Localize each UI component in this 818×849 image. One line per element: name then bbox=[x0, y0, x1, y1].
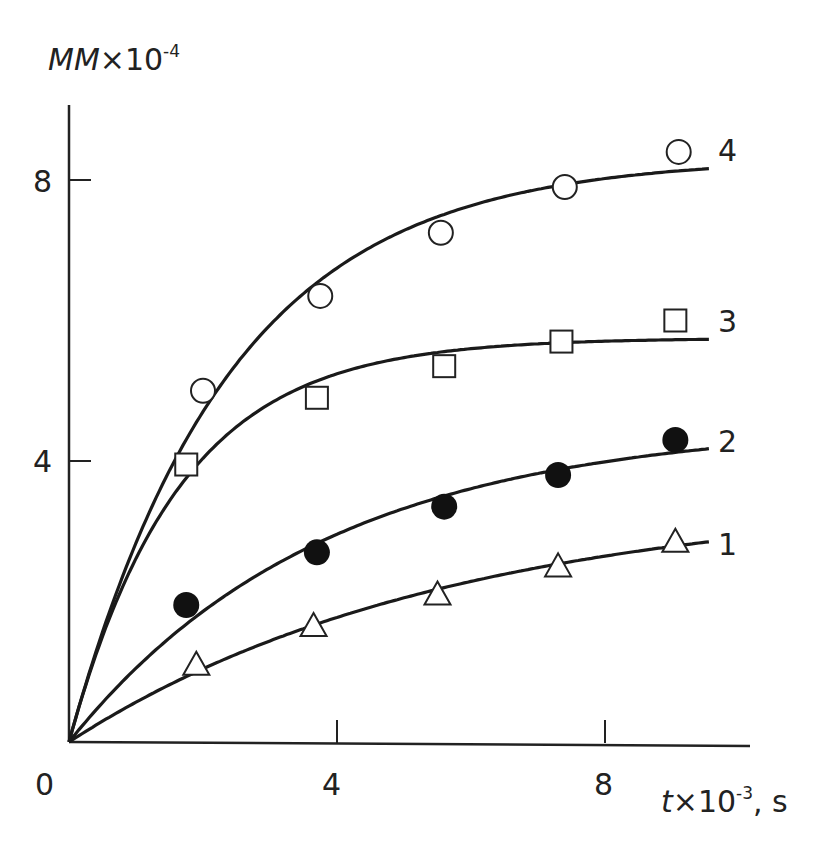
x-axis-title-exp: -3 bbox=[736, 783, 753, 803]
x-tick-label-4: 4 bbox=[322, 767, 341, 802]
fit-curve-3 bbox=[69, 339, 709, 742]
marker-series-2 bbox=[545, 462, 571, 488]
marker-series-3 bbox=[550, 331, 572, 353]
x-axis-title-mult: ×10 bbox=[673, 784, 736, 819]
y-axis-title-var: MM bbox=[48, 42, 100, 77]
marker-series-1 bbox=[301, 613, 327, 636]
y-axis-title-mult: ×10 bbox=[100, 42, 163, 77]
origin-label: 0 bbox=[35, 767, 54, 802]
marker-series-3 bbox=[433, 355, 455, 377]
marker-series-2 bbox=[173, 592, 199, 618]
marker-series-3 bbox=[306, 387, 328, 409]
marker-series-2 bbox=[662, 427, 688, 453]
y-axis-title: MM×10-4 bbox=[48, 41, 180, 77]
chart-figure: 0 4 8 4 8 MM×10-4 t×10-3, s 1 2 3 4 bbox=[0, 0, 818, 849]
curve-label-4: 4 bbox=[718, 133, 737, 168]
marker-series-4 bbox=[667, 140, 691, 164]
marker-series-3 bbox=[664, 310, 686, 332]
marker-series-1 bbox=[183, 652, 209, 675]
x-tick-label-8: 8 bbox=[594, 767, 613, 802]
marker-series-4 bbox=[553, 175, 577, 199]
fit-curve-4 bbox=[69, 169, 709, 742]
x-axis-title-unit: , s bbox=[753, 784, 788, 819]
x-axis-title: t×10-3, s bbox=[661, 783, 788, 819]
fit-curve-2 bbox=[69, 449, 709, 742]
marker-series-3 bbox=[175, 454, 197, 476]
marker-series-2 bbox=[431, 494, 457, 520]
marker-series-2 bbox=[304, 539, 330, 565]
chart-plot: 0 4 8 4 8 MM×10-4 t×10-3, s 1 2 3 4 bbox=[0, 0, 818, 849]
curve-label-3: 3 bbox=[718, 304, 737, 339]
y-tick-label-8: 8 bbox=[33, 164, 52, 199]
marker-series-4 bbox=[308, 284, 332, 308]
fit-curves bbox=[69, 169, 709, 742]
axes bbox=[69, 105, 750, 746]
marker-series-1 bbox=[662, 529, 688, 552]
curve-label-2: 2 bbox=[718, 424, 737, 459]
x-axis-line bbox=[69, 742, 750, 746]
y-axis-title-exp: -4 bbox=[163, 41, 180, 61]
marker-series-4 bbox=[191, 379, 215, 403]
y-tick-label-4: 4 bbox=[33, 444, 52, 479]
curve-label-1: 1 bbox=[718, 527, 737, 562]
marker-series-4 bbox=[429, 221, 453, 245]
